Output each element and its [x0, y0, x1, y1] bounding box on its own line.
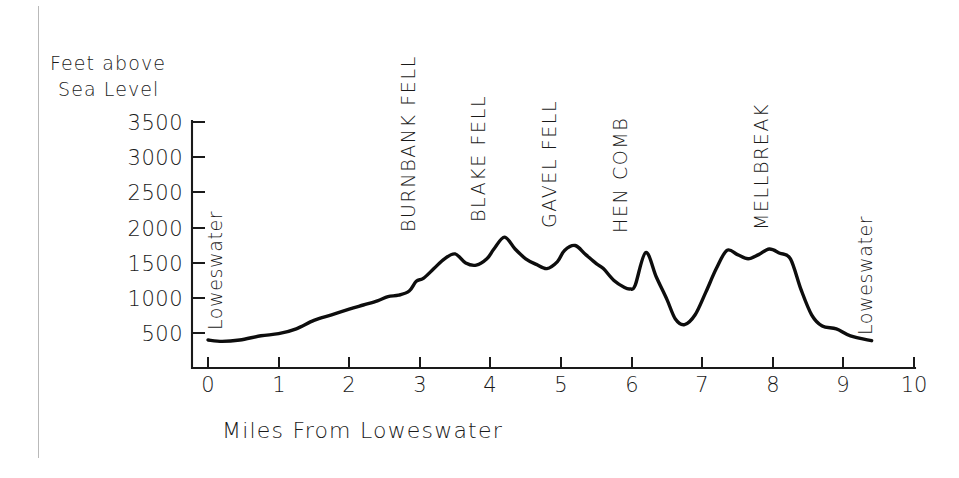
y-tick-label-3000: 3000 [128, 146, 183, 170]
x-tick-label-5: 5 [554, 373, 567, 397]
y-axis-title-line1: Feet above [50, 52, 166, 74]
x-tick-label-6: 6 [625, 373, 638, 397]
x-tick-label-1: 1 [272, 373, 285, 397]
peak-label-burnbank-fell: BURNBANK FELL [397, 55, 419, 232]
x-tick-label-0: 0 [201, 373, 214, 397]
lake-label-loweswater-end: Loweswater [854, 216, 876, 335]
x-tick-label-4: 4 [483, 373, 496, 397]
elevation-profile-chart: Feet above Sea Level 3500 3000 2500 2000… [0, 0, 959, 478]
x-tick-label-8: 8 [766, 373, 779, 397]
y-tick-label-3500: 3500 [128, 111, 183, 135]
y-tick-label-2000: 2000 [128, 217, 183, 241]
elevation-profile-line [208, 237, 872, 341]
x-tick-label-10: 10 [901, 373, 928, 397]
y-tick-label-1000: 1000 [128, 287, 183, 311]
peak-label-blake-fell: BLAKE FELL [467, 95, 489, 222]
lake-label-loweswater-start: Loweswater [204, 211, 226, 330]
peak-label-hen-comb: HEN COMB [609, 117, 631, 233]
y-tick-label-2500: 2500 [128, 181, 183, 205]
y-tick-label-500: 500 [141, 322, 183, 346]
x-tick-label-9: 9 [836, 373, 849, 397]
chart-page: Feet above Sea Level 3500 3000 2500 2000… [0, 0, 959, 478]
x-axis-title: Miles From Loweswater [222, 418, 503, 443]
y-axis-title-line2: Sea Level [58, 78, 160, 100]
peak-label-gavel-fell: GAVEL FELL [538, 100, 560, 228]
peak-label-mellbreak: MELLBREAK [750, 103, 772, 230]
x-tick-label-7: 7 [695, 373, 708, 397]
y-tick-label-1500: 1500 [128, 252, 183, 276]
x-tick-label-2: 2 [342, 373, 355, 397]
x-tick-label-3: 3 [413, 373, 426, 397]
